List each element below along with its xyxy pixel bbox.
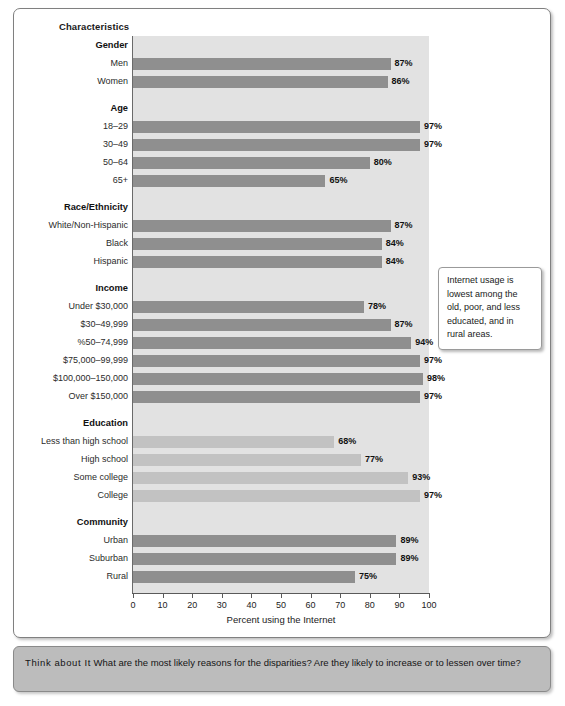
bar-value-label: 97% — [424, 354, 442, 367]
bar-row: Less than high school68% — [14, 433, 552, 451]
group-heading-row: Education — [14, 414, 552, 433]
bar-row: $75,000–99,99997% — [14, 352, 552, 370]
bar-row: White/Non-Hispanic87% — [14, 217, 552, 235]
x-tick-mark — [163, 593, 164, 598]
bar-value-label: 87% — [395, 57, 413, 70]
figure-page: Characteristics GenderMen87%Women86%Age1… — [0, 0, 565, 706]
x-tick-mark — [429, 593, 430, 598]
bar-value-label: 94% — [415, 336, 433, 349]
group-heading-row: Gender — [14, 36, 552, 55]
x-tick-mark — [399, 593, 400, 598]
bar-value-label: 89% — [400, 534, 418, 547]
callout-note: Internet usage is lowest among the old, … — [438, 267, 542, 350]
bar — [133, 121, 420, 133]
figure-frame: Characteristics GenderMen87%Women86%Age1… — [13, 8, 551, 638]
x-tick-mark — [281, 593, 282, 598]
bar-value-label: 97% — [424, 390, 442, 403]
bar — [133, 139, 420, 151]
group-spacer — [14, 190, 552, 198]
bar-row: 50–6480% — [14, 154, 552, 172]
bar-value-label: 75% — [359, 570, 377, 583]
group-spacer — [14, 91, 552, 99]
bar-value-label: 97% — [424, 138, 442, 151]
group-heading-label: Income — [95, 282, 128, 295]
bar — [133, 553, 396, 565]
x-tick-label: 100 — [421, 600, 436, 610]
bar-category-label: Men — [110, 57, 128, 70]
x-tick-mark — [222, 593, 223, 598]
bar-value-label: 77% — [365, 453, 383, 466]
bar — [133, 301, 364, 313]
x-tick-mark — [340, 593, 341, 598]
bar — [133, 490, 420, 502]
group-heading-label: Education — [83, 417, 128, 430]
x-tick-mark — [370, 593, 371, 598]
bar — [133, 454, 361, 466]
group-spacer — [14, 406, 552, 414]
bar-row: Over $150,00097% — [14, 388, 552, 406]
bar-row: High school77% — [14, 451, 552, 469]
bar-category-label: Over $150,000 — [68, 390, 128, 403]
bar-category-label: $30–49,999 — [80, 318, 128, 331]
x-tick-label: 30 — [217, 600, 227, 610]
bar-value-label: 80% — [374, 156, 392, 169]
think-about-it-label: Think about It — [25, 657, 91, 668]
bar-row: 30–4997% — [14, 136, 552, 154]
bar-chart: Characteristics GenderMen87%Women86%Age1… — [14, 9, 552, 639]
bar-value-label: 87% — [395, 318, 413, 331]
x-tick-mark — [251, 593, 252, 598]
bar-value-label: 97% — [424, 489, 442, 502]
bar-value-label: 84% — [386, 237, 404, 250]
x-tick-label: 60 — [306, 600, 316, 610]
x-axis-title: Percent using the Internet — [132, 614, 430, 625]
x-tick-label: 80 — [365, 600, 375, 610]
x-tick-label: 70 — [335, 600, 345, 610]
bar — [133, 373, 423, 385]
bar — [133, 58, 391, 70]
group-heading-row: Community — [14, 513, 552, 532]
bar — [133, 175, 325, 187]
bar-category-label: College — [97, 489, 128, 502]
bar-category-label: Under $30,000 — [68, 300, 128, 313]
bar-category-label: High school — [81, 453, 128, 466]
think-about-it-text: What are the most likely reasons for the… — [94, 657, 521, 668]
column-header-characteristics: Characteristics — [59, 21, 129, 32]
bar-category-label: Women — [97, 75, 128, 88]
x-tick-mark — [311, 593, 312, 598]
bar-row: Suburban89% — [14, 550, 552, 568]
bar — [133, 535, 396, 547]
bar — [133, 337, 411, 349]
bar-value-label: 87% — [395, 219, 413, 232]
bar-row: Men87% — [14, 55, 552, 73]
bar-category-label: 30–49 — [103, 138, 128, 151]
bar-category-label: $75,000–99,999 — [63, 354, 128, 367]
bar-category-label: %50–74,999 — [77, 336, 128, 349]
think-about-it-band: Think about It What are the most likely … — [13, 646, 551, 692]
group-heading-row: Age — [14, 99, 552, 118]
bar-value-label: 98% — [427, 372, 445, 385]
x-tick-label: 90 — [394, 600, 404, 610]
bar-category-label: 18–29 — [103, 120, 128, 133]
group-spacer — [14, 505, 552, 513]
x-tick-label: 50 — [276, 600, 286, 610]
group-heading-row: Race/Ethnicity — [14, 198, 552, 217]
bar-row: Rural75% — [14, 568, 552, 586]
bar-row: Black84% — [14, 235, 552, 253]
x-tick-label: 20 — [187, 600, 197, 610]
bar-category-label: White/Non-Hispanic — [48, 219, 128, 232]
bar — [133, 238, 382, 250]
bar-row: College97% — [14, 487, 552, 505]
bar-value-label: 84% — [386, 255, 404, 268]
bar — [133, 76, 388, 88]
x-tick-label: 10 — [158, 600, 168, 610]
group-heading-label: Age — [110, 102, 128, 115]
bar — [133, 436, 334, 448]
x-tick-mark — [192, 593, 193, 598]
x-axis-ticks: 0102030405060708090100 — [132, 593, 430, 599]
bar-category-label: $100,000–150,000 — [53, 372, 128, 385]
x-tick-label: 0 — [130, 600, 135, 610]
bar-row: 18–2997% — [14, 118, 552, 136]
group-heading-label: Community — [77, 516, 128, 529]
bar-category-label: Urban — [103, 534, 128, 547]
x-tick-mark — [133, 593, 134, 598]
